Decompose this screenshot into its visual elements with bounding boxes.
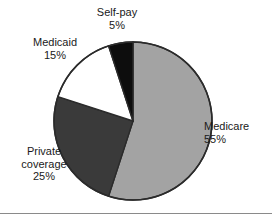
pie-label-medicare-name: Medicare — [204, 120, 270, 133]
pie-label-self-pay-value: 5% — [73, 19, 161, 32]
pie-chart-figure: Self-pay 5% Medicaid 15% Private coverag… — [0, 0, 272, 216]
pie-label-private-coverage-name-line2: coverage — [2, 158, 86, 171]
pie-label-private-coverage: Private coverage 25% — [2, 145, 86, 183]
bottom-divider — [0, 213, 272, 214]
pie-label-medicaid-name: Medicaid — [14, 36, 96, 49]
pie-label-private-coverage-value: 25% — [2, 170, 86, 183]
chart-plot-area: Self-pay 5% Medicaid 15% Private coverag… — [0, 0, 272, 216]
pie-label-medicaid-value: 15% — [14, 49, 96, 62]
pie-chart-svg — [0, 0, 272, 216]
pie-label-medicare: Medicare 55% — [204, 120, 270, 145]
pie-label-private-coverage-name-line1: Private — [2, 145, 86, 158]
pie-label-self-pay: Self-pay 5% — [73, 6, 161, 31]
pie-label-self-pay-name: Self-pay — [73, 6, 161, 19]
pie-label-medicaid: Medicaid 15% — [14, 36, 96, 61]
pie-label-medicare-value: 55% — [204, 133, 270, 146]
